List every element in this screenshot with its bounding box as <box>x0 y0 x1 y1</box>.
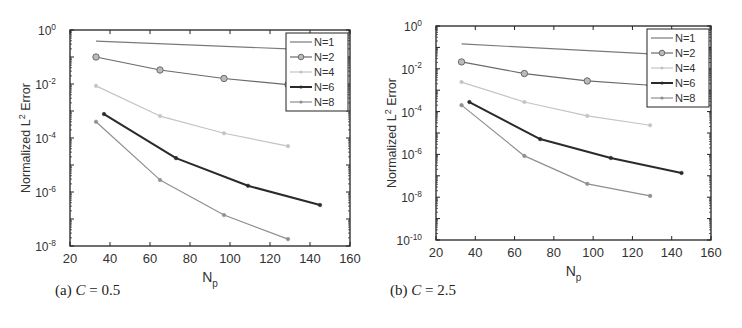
caption-a-value: = 0.5 <box>85 282 120 298</box>
data-point-marker <box>460 80 464 84</box>
series-n4 <box>460 80 652 127</box>
x-tick-label: 140 <box>299 251 321 266</box>
series-line <box>462 62 651 85</box>
x-tick-label: 20 <box>429 245 443 260</box>
x-tick-label: 80 <box>183 251 197 266</box>
y-tick-label: 10-6 <box>35 184 56 200</box>
x-tick-label: 100 <box>582 245 604 260</box>
legend: N=1N=2N=4N=6N=8 <box>647 29 709 107</box>
data-point-marker <box>93 54 99 60</box>
legend-label: N=6 <box>675 77 696 89</box>
x-tick-label: 160 <box>700 245 722 260</box>
data-point-marker <box>157 67 163 73</box>
series-n6 <box>102 112 322 207</box>
legend-marker <box>660 66 663 69</box>
series-line <box>96 57 288 85</box>
series-line <box>462 82 651 125</box>
data-point-marker <box>246 184 250 188</box>
y-tick-label: 10-6 <box>401 146 422 162</box>
y-axis-label: Normalized L2 Error <box>17 83 33 193</box>
x-tick-label: 60 <box>507 245 521 260</box>
data-point-marker <box>585 182 589 186</box>
series-n1 <box>96 41 288 49</box>
legend-marker <box>660 96 663 99</box>
caption-b: (b) C = 2.5 <box>390 282 456 299</box>
caption-a-prefix: (a) <box>55 282 75 298</box>
data-point-marker <box>460 103 464 107</box>
data-point-marker <box>174 156 178 160</box>
data-point-marker <box>680 171 684 175</box>
series-line <box>96 41 288 49</box>
data-point-marker <box>221 75 227 81</box>
x-tick-label: 160 <box>339 251 361 266</box>
series-n8 <box>94 120 290 241</box>
line-chart-b: 2040608010012014016010010-210-410-610-81… <box>370 0 742 328</box>
data-point-marker <box>94 84 98 88</box>
caption-a: (a) C = 0.5 <box>55 282 120 299</box>
series-line <box>104 114 320 205</box>
data-point-marker <box>648 123 652 127</box>
caption-b-var: C <box>411 282 421 298</box>
legend-marker <box>299 100 302 103</box>
data-point-marker <box>584 78 590 84</box>
x-tick-label: 140 <box>661 245 683 260</box>
legend-marker <box>299 85 302 88</box>
legend-label: N=2 <box>314 51 335 63</box>
x-tick-label: 100 <box>219 251 241 266</box>
data-point-marker <box>318 203 322 207</box>
data-point-marker <box>523 100 527 104</box>
legend-marker <box>659 50 665 56</box>
x-tick-label: 120 <box>622 245 644 260</box>
y-tick-label: 100 <box>404 18 422 34</box>
data-point-marker <box>286 237 290 241</box>
subplot-a: 2040608010012014016010010-210-410-610-8N… <box>0 0 370 328</box>
line-chart-a: 2040608010012014016010010-210-410-610-8N… <box>0 0 370 328</box>
series-n6 <box>468 100 684 175</box>
series-n4 <box>94 84 290 148</box>
data-point-marker <box>102 112 106 116</box>
x-axis-label: Np <box>566 263 582 283</box>
series-n1 <box>462 44 651 54</box>
series-n2 <box>93 54 291 88</box>
legend-label: N=8 <box>314 96 335 108</box>
legend-marker <box>660 81 663 84</box>
series-line <box>96 86 288 146</box>
x-tick-label: 120 <box>259 251 281 266</box>
legend-marker <box>299 70 302 73</box>
legend-label: N=8 <box>675 92 696 104</box>
x-tick-label: 80 <box>547 245 561 260</box>
y-tick-label: 10-2 <box>35 76 56 92</box>
legend-label: N=1 <box>675 32 696 44</box>
series-n2 <box>458 59 653 89</box>
y-tick-label: 10-2 <box>401 60 422 76</box>
series-n8 <box>460 103 652 197</box>
legend-label: N=1 <box>314 36 335 48</box>
data-point-marker <box>521 70 527 76</box>
data-point-marker <box>468 100 472 104</box>
data-point-marker <box>222 213 226 217</box>
data-point-marker <box>538 137 542 141</box>
data-point-marker <box>158 178 162 182</box>
caption-a-var: C <box>75 282 85 298</box>
legend-label: N=4 <box>314 66 335 78</box>
x-tick-label: 40 <box>468 245 482 260</box>
x-tick-label: 20 <box>63 251 77 266</box>
legend: N=1N=2N=4N=6N=8 <box>286 33 348 111</box>
legend-label: N=4 <box>675 62 696 74</box>
x-tick-label: 40 <box>103 251 117 266</box>
data-point-marker <box>648 194 652 198</box>
y-tick-label: 10-4 <box>35 130 56 146</box>
series-line <box>462 44 651 54</box>
data-point-marker <box>158 114 162 118</box>
y-axis-label: Normalized L2 Error <box>383 78 399 188</box>
series-line <box>96 122 288 239</box>
caption-b-prefix: (b) <box>390 282 411 298</box>
data-point-marker <box>94 120 98 124</box>
x-axis-label: Np <box>202 269 218 289</box>
data-point-marker <box>458 59 464 65</box>
y-tick-label: 10-4 <box>401 103 422 119</box>
data-point-marker <box>585 114 589 118</box>
x-tick-label: 60 <box>143 251 157 266</box>
legend-marker <box>298 54 304 60</box>
data-point-marker <box>222 131 226 135</box>
